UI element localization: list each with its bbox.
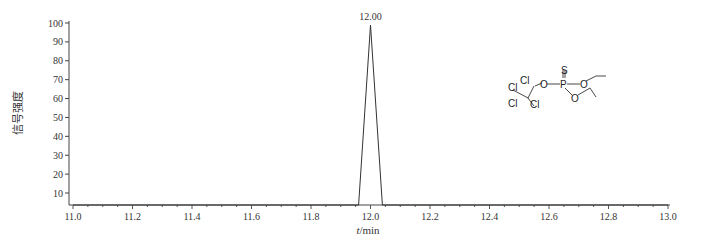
y-tick-label: 90 [53,36,63,47]
y-ticks: 102030405060708090100 [48,18,69,199]
chromatogram-trace [73,25,668,205]
y-tick-label: 20 [53,169,63,180]
y-tick-label: 60 [53,93,63,104]
x-tick-label: 11.6 [243,211,260,222]
x-tick-label: 11.2 [124,211,141,222]
x-tick-label: 12.4 [481,211,499,222]
svg-text:Cl: Cl [508,82,517,93]
svg-text:O: O [580,79,588,90]
x-axis-label: t/min [356,224,380,236]
x-tick-label: 12.6 [540,211,558,222]
molecule-labels: Cl Cl Cl Cl O P S O O [508,65,588,110]
peak-label: 12.00 [359,11,382,22]
chromatogram-chart: 102030405060708090100 11.011.211.411.611… [0,0,702,243]
x-tick-label: 12.8 [600,211,618,222]
y-tick-label: 100 [48,18,63,29]
y-tick-label: 40 [53,131,63,142]
y-tick-label: 30 [53,150,63,161]
y-tick-label: 70 [53,74,63,85]
svg-text:Cl: Cl [530,99,539,110]
y-tick-label: 10 [53,188,63,199]
y-axis-label: 信号强度 [11,91,25,135]
y-tick-label: 50 [53,112,63,123]
x-tick-label: 13.0 [659,211,677,222]
x-tick-label: 11.8 [302,211,319,222]
x-tick-label: 11.0 [64,211,81,222]
svg-text:S: S [561,65,568,76]
x-tick-label: 11.4 [183,211,200,222]
y-tick-label: 80 [53,55,63,66]
svg-text:Cl: Cl [520,75,529,86]
svg-text:P: P [560,79,567,90]
svg-text:Cl: Cl [508,98,517,109]
svg-text:O: O [540,79,548,90]
x-ticks: 11.011.211.411.611.812.012.212.412.612.8… [64,205,676,222]
x-tick-label: 12.0 [362,211,380,222]
x-tick-label: 12.2 [421,211,439,222]
svg-text:O: O [571,93,579,104]
